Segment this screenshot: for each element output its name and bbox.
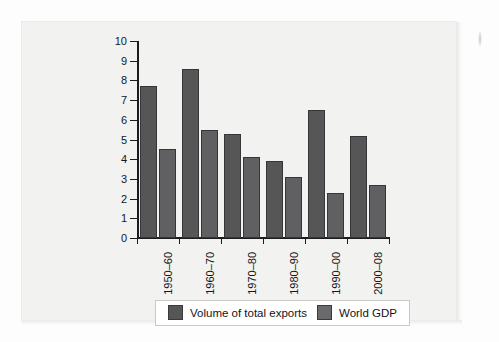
bar-exports xyxy=(182,69,199,238)
y-axis-tick xyxy=(130,100,137,101)
panel-right-shadow xyxy=(456,22,462,320)
x-axis-category-label: 1970–80 xyxy=(247,252,258,295)
x-axis-tick xyxy=(137,237,138,244)
x-axis-category-label: 1960–70 xyxy=(205,252,216,295)
plot-area: 012345678910 xyxy=(137,41,389,238)
y-axis-tick-label: 0 xyxy=(121,233,127,244)
x-axis-tick xyxy=(347,237,348,244)
chart-page: 012345678910 Volume of total exports Wor… xyxy=(0,0,499,342)
y-axis-tick-label: 3 xyxy=(121,173,127,184)
x-axis-category-label: 1950–60 xyxy=(163,252,174,295)
y-axis-tick xyxy=(130,179,137,180)
legend-swatch-exports xyxy=(168,305,183,320)
y-axis-tick xyxy=(130,238,137,239)
legend-item-gdp: World GDP xyxy=(317,305,397,320)
y-axis-tick-label: 10 xyxy=(115,36,127,47)
y-axis-tick-label: 8 xyxy=(121,75,127,86)
bar-gdp xyxy=(327,193,344,238)
x-axis-tick xyxy=(263,237,264,244)
y-axis-tick-label: 5 xyxy=(121,134,127,145)
x-axis-category-label: 2000–08 xyxy=(373,252,384,295)
bar-exports xyxy=(140,86,157,238)
x-axis-tick xyxy=(389,237,390,244)
y-axis-tick-label: 9 xyxy=(121,55,127,66)
x-axis-tick xyxy=(305,237,306,244)
x-axis-tick xyxy=(221,237,222,244)
bar-gdp xyxy=(201,130,218,238)
bar-exports xyxy=(224,134,241,238)
bar-gdp xyxy=(243,157,260,238)
y-axis-tick xyxy=(130,159,137,160)
legend-item-exports: Volume of total exports xyxy=(168,305,307,320)
bar-gdp xyxy=(285,177,302,238)
legend-label-gdp: World GDP xyxy=(339,307,397,319)
y-axis-tick xyxy=(130,61,137,62)
y-axis-tick-label: 2 xyxy=(121,193,127,204)
bar-exports xyxy=(308,110,325,238)
x-axis-category-label: 1980–90 xyxy=(289,252,300,295)
bar-exports xyxy=(350,136,367,238)
legend-label-exports: Volume of total exports xyxy=(190,307,307,319)
scan-artifact xyxy=(478,30,482,48)
bar-gdp xyxy=(159,149,176,238)
y-axis-tick xyxy=(130,199,137,200)
y-axis-tick-label: 6 xyxy=(121,114,127,125)
bar-gdp xyxy=(369,185,386,238)
x-axis-tick xyxy=(179,237,180,244)
legend-swatch-gdp xyxy=(317,305,332,320)
y-axis-tick-label: 7 xyxy=(121,95,127,106)
y-axis-tick-label: 4 xyxy=(121,154,127,165)
chart-legend: Volume of total exports World GDP xyxy=(155,300,410,326)
x-axis-category-label: 1990–00 xyxy=(331,252,342,295)
bar-exports xyxy=(266,161,283,238)
y-axis-tick xyxy=(130,120,137,121)
y-axis-tick xyxy=(130,140,137,141)
y-axis-tick xyxy=(130,218,137,219)
y-axis-tick xyxy=(130,80,137,81)
y-axis-tick xyxy=(130,41,137,42)
y-axis-tick-label: 1 xyxy=(121,213,127,224)
